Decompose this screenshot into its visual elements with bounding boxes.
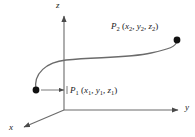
coord-y-sub-p1: 1: [100, 89, 103, 96]
axis-line-x: [24, 110, 64, 127]
point-subscript-p1: 1: [76, 89, 79, 96]
point-marker-p1: [33, 87, 40, 94]
diagram-canvas: [0, 0, 195, 137]
point-label-p1: P1 (x1, y1, z1): [70, 86, 117, 95]
connecting-curve: [36, 41, 177, 90]
coord-z-sub-p2: 2: [152, 25, 155, 32]
point-symbol-p1: P: [70, 85, 76, 95]
point-marker-p2: [174, 37, 181, 44]
coord-z-sub-p1: 1: [111, 89, 114, 96]
coord-y-sub-p2: 2: [141, 25, 144, 32]
axis-label-x: x: [9, 123, 13, 132]
point-subscript-p2: 2: [117, 25, 120, 32]
point-label-p2: P2 (x2, y2, z2): [111, 22, 158, 31]
coord-x-sub-p2: 2: [129, 25, 132, 32]
point-symbol-p2: P: [111, 21, 117, 31]
coordinate-system-diagram: z y x P2 (x2, y2, z2) P1 (x1, y1, z1): [0, 0, 195, 137]
coord-x-sub-p1: 1: [88, 89, 91, 96]
axis-label-z: z: [56, 1, 60, 10]
axis-label-y: y: [185, 103, 189, 112]
